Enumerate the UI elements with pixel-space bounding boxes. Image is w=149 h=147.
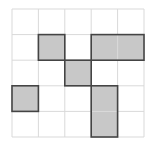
shaded-cell: [38, 35, 64, 61]
shaded-cell: [91, 86, 117, 112]
grid-diagram: [0, 0, 149, 147]
shaded-cell: [91, 111, 117, 137]
shaded-cell: [12, 86, 38, 112]
shaded-cell: [65, 60, 91, 86]
shaded-cell: [91, 35, 117, 61]
shaded-cell: [118, 35, 144, 61]
